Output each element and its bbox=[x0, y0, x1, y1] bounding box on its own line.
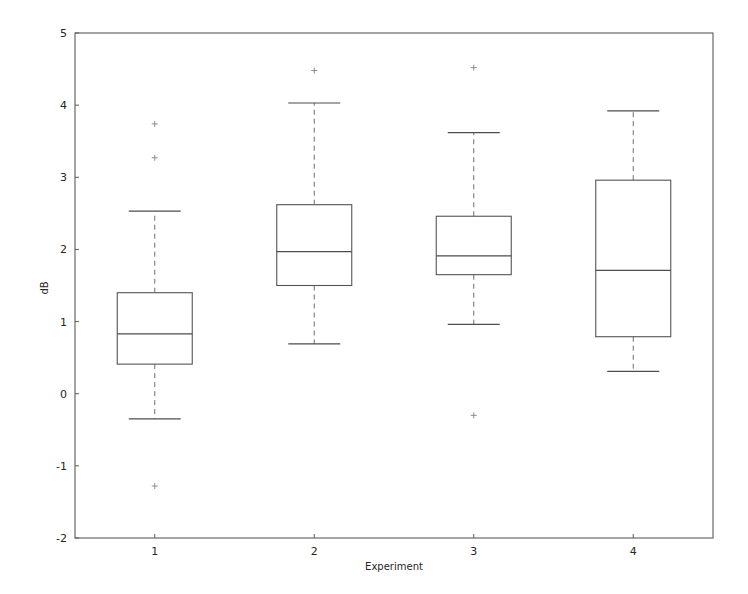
y-tick-label: 1 bbox=[60, 316, 67, 329]
y-tick-label: -2 bbox=[56, 532, 67, 545]
y-tick-label: 5 bbox=[60, 27, 67, 40]
y-tick-label: 3 bbox=[60, 171, 67, 184]
chart-canvas: -2-1012345 1234 Experiment dB bbox=[0, 0, 748, 594]
figure-background bbox=[0, 0, 748, 594]
y-tick-label: 4 bbox=[60, 99, 67, 112]
x-tick-label: 4 bbox=[630, 545, 637, 558]
x-tick-label: 1 bbox=[151, 545, 158, 558]
y-tick-label: 0 bbox=[60, 388, 67, 401]
box-plot-figure: -2-1012345 1234 Experiment dB bbox=[0, 0, 748, 594]
x-axis-label: Experiment bbox=[365, 561, 423, 572]
y-tick-label: 2 bbox=[60, 243, 67, 256]
x-tick-label: 2 bbox=[311, 545, 318, 558]
y-tick-label: -1 bbox=[56, 460, 67, 473]
x-tick-label: 3 bbox=[470, 545, 477, 558]
y-axis-label: dB bbox=[39, 281, 50, 294]
